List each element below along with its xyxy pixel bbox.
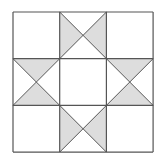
quilt-block-diagram xyxy=(0,0,162,163)
quilt-cell-hourglass xyxy=(60,12,107,59)
quilt-cell-hourglass xyxy=(60,105,107,152)
quilt-cell-hourglass xyxy=(106,59,153,106)
quilt-cell-hourglass xyxy=(13,59,60,106)
